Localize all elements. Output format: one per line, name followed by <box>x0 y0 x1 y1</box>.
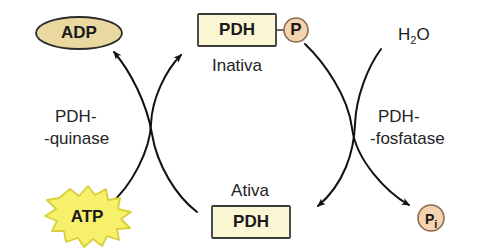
water-to-pdh-active-arrow <box>318 49 381 206</box>
water-label-o: O <box>416 25 429 44</box>
active-state-label: Ativa <box>231 181 269 200</box>
kinase-arrow-group <box>109 52 197 212</box>
inactive-state-label: Inativa <box>212 56 263 75</box>
kinase-enzyme-label: PDH- -quinase <box>44 107 109 148</box>
phosphatase-label-line2: -fosfatase <box>370 129 445 148</box>
water-label: H2O <box>398 25 430 46</box>
adp-label: ADP <box>61 23 97 42</box>
pdh-active-label: PDH <box>233 212 269 231</box>
phosphatase-label-line1: PDH- <box>378 107 420 126</box>
phosphatase-enzyme-label: PDH- -fosfatase <box>370 107 445 148</box>
pi-label-p: P <box>425 211 434 227</box>
water-node: H2O <box>398 25 430 46</box>
pi-label-subscript: i <box>434 218 437 230</box>
atp-label: ATP <box>71 207 104 226</box>
inorganic-phosphate-node: Pi <box>418 205 444 231</box>
water-label-h: H <box>398 25 410 44</box>
pdh-inactive-node: PDH <box>198 14 276 46</box>
kinase-label-line2: -quinase <box>44 129 109 148</box>
pdh-inactive-label: PDH <box>219 20 255 39</box>
pdh-regulation-diagram: ADP ATP PDH P Inativa Ativa PDH H2O <box>0 0 486 248</box>
phosphate-label: P <box>290 20 301 39</box>
pdh-active-node: PDH <box>212 206 290 238</box>
phosphate-group-node: P <box>284 18 308 42</box>
adp-node: ADP <box>36 17 122 49</box>
diagram-canvas: ADP ATP PDH P Inativa Ativa PDH H2O <box>0 0 486 248</box>
kinase-label-line1: PDH- <box>55 107 97 126</box>
